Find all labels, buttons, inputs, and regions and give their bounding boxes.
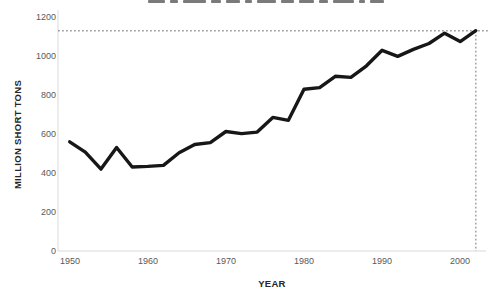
x-tick-label: 1980 xyxy=(284,256,324,266)
x-tick-label: 2000 xyxy=(440,256,480,266)
x-tick-label: 1960 xyxy=(128,256,168,266)
y-tick-label: 1200 xyxy=(26,12,56,22)
chart-figure: 020040060080010001200 195019601970198019… xyxy=(0,0,492,303)
y-tick-label: 1000 xyxy=(26,51,56,61)
y-tick-label: 200 xyxy=(26,207,56,217)
y-tick-label: 600 xyxy=(26,129,56,139)
x-tick-label: 1970 xyxy=(206,256,246,266)
y-tick-label: 400 xyxy=(26,168,56,178)
y-tick-label: 0 xyxy=(26,246,56,256)
x-tick-label: 1950 xyxy=(50,256,90,266)
y-tick-label: 800 xyxy=(26,90,56,100)
y-axis-title: MILLION SHORT TONS xyxy=(12,75,23,195)
x-axis-title: YEAR xyxy=(252,278,292,289)
x-tick-label: 1990 xyxy=(362,256,402,266)
coal-production-line xyxy=(70,31,476,169)
